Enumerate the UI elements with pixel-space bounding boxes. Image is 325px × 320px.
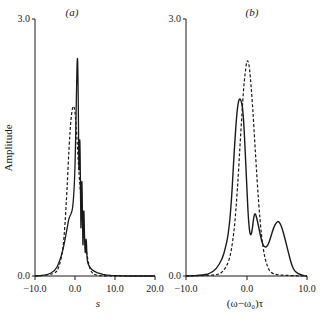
figure: (a) Amplitude 3.0 0.0 −10.0 0.0 10.0 20.… — [0, 0, 325, 320]
panel-b-x-tick: 0.0 — [241, 283, 254, 294]
panel-a: (a) Amplitude 3.0 0.0 −10.0 0.0 10.0 20.… — [2, 6, 164, 309]
panel-a-x-tick: 0.0 — [69, 283, 82, 294]
panel-b-x-label: (ω−ω₀)τ — [227, 297, 264, 310]
panel-b-y-tick-top: 3.0 — [169, 13, 182, 24]
panel-b: (b) 3.0 0.0 −10.0 0.0 10.0 (ω−ω₀)τ — [169, 6, 316, 310]
panel-b-x-tick: −10.0 — [174, 283, 197, 294]
panel-b-y-tick-bottom: 0.0 — [169, 270, 182, 281]
panel-a-x-tick: 10.0 — [106, 283, 124, 294]
panel-a-y-tick-top: 3.0 — [18, 13, 31, 24]
panel-a-label: (a) — [66, 6, 79, 19]
panel-b-solid-curve — [186, 99, 307, 276]
panel-b-x-tick: 10.0 — [298, 283, 316, 294]
panel-a-x-tick: −10.0 — [23, 283, 46, 294]
panel-a-x-tick: 20.0 — [146, 283, 164, 294]
panel-a-x-label: s — [96, 297, 100, 309]
panel-b-label: (b) — [246, 6, 259, 19]
panel-a-dashed-curve — [35, 106, 155, 276]
y-axis-label: Amplitude — [2, 124, 14, 171]
panel-a-solid-curve — [35, 58, 155, 276]
panel-a-y-tick-bottom: 0.0 — [18, 270, 31, 281]
